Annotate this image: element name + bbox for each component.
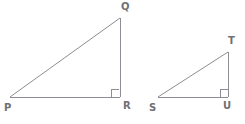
triangle-stu-shape [158,52,228,97]
vertex-label-p: P [4,103,11,113]
right-angle-marker-u [220,89,228,97]
vertex-label-q: Q [121,2,130,12]
vertex-label-u: U [223,101,231,111]
triangle-pqr-shape [10,18,120,97]
segment-pq [10,18,120,97]
vertex-label-r: R [123,101,131,111]
vertex-label-s: S [149,103,156,113]
diagram-canvas: P Q R S T U [0,0,245,124]
segment-st [158,52,228,97]
right-angle-marker-r [111,89,119,97]
vertex-label-t: T [228,36,235,46]
